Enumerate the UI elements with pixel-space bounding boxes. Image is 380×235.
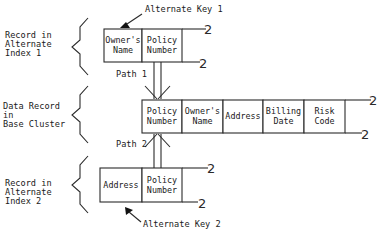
svg-text:Billing: Billing bbox=[266, 106, 301, 116]
path-2-label: Path 2 bbox=[116, 139, 147, 149]
side-label-base-cluster: Data Record in Base Cluster bbox=[3, 101, 65, 129]
continuation-mark: 2 bbox=[361, 127, 369, 142]
path-1-arrow: Path 1 bbox=[116, 62, 170, 99]
svg-text:Date: Date bbox=[273, 116, 293, 126]
svg-text:Policy: Policy bbox=[147, 175, 177, 185]
continuation-mark: 2 bbox=[207, 161, 215, 176]
brace-icon bbox=[72, 18, 88, 75]
side-label-alt-index-1: Record in Alternate Index 1 bbox=[5, 30, 52, 58]
svg-text:Owner's: Owner's bbox=[185, 106, 220, 116]
continuation-mark: 2 bbox=[204, 22, 212, 37]
svg-text:Risk: Risk bbox=[314, 106, 334, 116]
svg-text:Index 1: Index 1 bbox=[5, 48, 41, 58]
svg-text:Code: Code bbox=[314, 116, 334, 126]
alt-index-1-record: 2 2 Owner's Name Policy Number bbox=[104, 22, 212, 71]
path-2-arrow: Path 2 bbox=[116, 134, 170, 168]
svg-text:Number: Number bbox=[147, 45, 177, 55]
svg-text:Index 2: Index 2 bbox=[5, 196, 41, 206]
svg-text:Name: Name bbox=[192, 116, 212, 126]
svg-text:Name: Name bbox=[113, 45, 133, 55]
alternate-key-1-label: Alternate Key 1 bbox=[145, 4, 223, 14]
side-label-alt-index-2: Record in Alternate Index 2 bbox=[5, 178, 52, 206]
continuation-mark: 2 bbox=[369, 93, 377, 108]
svg-text:Owner's: Owner's bbox=[105, 35, 140, 45]
base-cluster-record: 2 2 Policy Number Owner's Name Address B… bbox=[142, 93, 377, 142]
svg-text:Number: Number bbox=[147, 116, 177, 126]
svg-text:Address: Address bbox=[225, 111, 260, 121]
continuation-mark: 2 bbox=[198, 196, 206, 211]
svg-text:Number: Number bbox=[147, 185, 177, 195]
vsam-alternate-index-diagram: Record in Alternate Index 1 Data Record … bbox=[0, 0, 380, 235]
svg-text:Base Cluster: Base Cluster bbox=[3, 119, 65, 129]
brace-icon bbox=[72, 86, 88, 143]
svg-text:Policy: Policy bbox=[147, 106, 177, 116]
svg-text:Policy: Policy bbox=[147, 35, 177, 45]
path-1-label: Path 1 bbox=[116, 69, 147, 79]
svg-text:Address: Address bbox=[103, 180, 138, 190]
alternate-key-2-label: Alternate Key 2 bbox=[143, 219, 221, 229]
continuation-mark: 2 bbox=[199, 56, 207, 71]
brace-icon bbox=[72, 156, 88, 213]
alt-index-2-record: 2 2 Address Policy Number bbox=[100, 161, 215, 211]
